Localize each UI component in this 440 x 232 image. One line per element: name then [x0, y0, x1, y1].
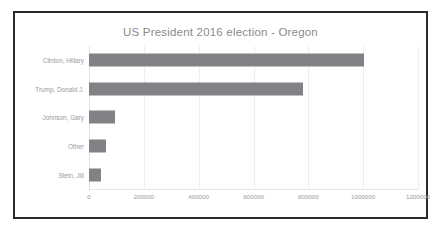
bar-row: Clinton, Hillary	[89, 46, 418, 75]
x-tick-label: 1200000	[406, 193, 430, 200]
x-tick-label: 400000	[188, 193, 209, 200]
bar	[89, 111, 115, 124]
chart-title: US President 2016 election - Oregon	[15, 26, 426, 38]
gridline	[418, 46, 419, 189]
bar	[89, 82, 303, 95]
category-label: Johnson, Gary	[42, 114, 84, 121]
bar-row: Stein, Jill	[89, 160, 418, 189]
bar-row: Other	[89, 132, 418, 161]
x-tick-label: 200000	[134, 193, 155, 200]
bar-row: Johnson, Gary	[89, 103, 418, 132]
category-label: Stein, Jill	[58, 171, 84, 178]
bar-row: Trump, Donald J.	[89, 75, 418, 104]
x-tick-label: 0	[87, 193, 90, 200]
x-axis-line	[89, 189, 418, 190]
bar	[89, 140, 106, 153]
x-tick-label: 600000	[243, 193, 264, 200]
category-label: Trump, Donald J.	[35, 85, 84, 92]
bar	[89, 168, 101, 181]
x-tick-label: 800000	[298, 193, 319, 200]
bar	[89, 54, 364, 67]
plot-area: Clinton, HillaryTrump, Donald J.Johnson,…	[89, 46, 418, 189]
category-label: Clinton, Hillary	[43, 57, 84, 64]
chart-frame: US President 2016 election - Oregon Clin…	[13, 11, 428, 219]
x-tick-label: 1000000	[351, 193, 375, 200]
category-label: Other	[68, 143, 84, 150]
